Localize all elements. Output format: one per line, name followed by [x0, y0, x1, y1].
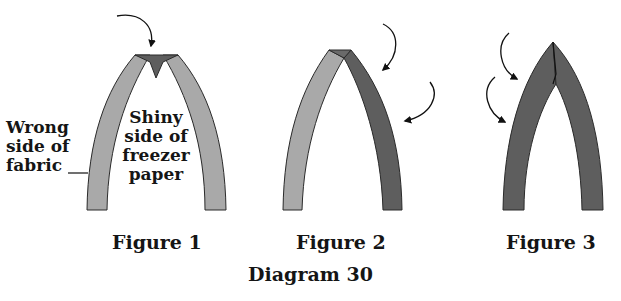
- label-line: side of: [6, 137, 86, 156]
- figure-3-arch: [487, 33, 603, 210]
- figure-2-arrow-2: [405, 82, 434, 121]
- label-line: paper: [116, 165, 196, 184]
- wrong-side-of-fabric-label: Wrong side of fabric: [6, 118, 86, 175]
- figure-1-fold-arrow: [117, 15, 152, 46]
- label-line: Wrong: [6, 118, 86, 137]
- figure-2-label: Figure 2: [296, 233, 386, 252]
- figure-1-label: Figure 1: [112, 233, 202, 252]
- figure-3-arrow-1: [501, 33, 517, 79]
- figure-2-arrow-1: [383, 24, 396, 70]
- shiny-side-of-freezer-paper-label: Shiny side of freezer paper: [116, 108, 196, 184]
- figure-3-label: Figure 3: [506, 233, 596, 252]
- label-line: fabric: [6, 156, 86, 175]
- label-line: freezer: [116, 146, 196, 165]
- diagram-canvas: [0, 0, 621, 301]
- diagram-title: Diagram 30: [0, 265, 621, 284]
- figure-3-left-leg: [503, 42, 556, 210]
- figure-3-right-leg: [553, 42, 603, 210]
- figure-2-left-leg: [283, 50, 344, 210]
- figure-2-right-leg: [344, 50, 402, 210]
- figure-3-arrow-2: [487, 77, 505, 122]
- figure-2-arch: [283, 24, 434, 210]
- label-line: Shiny: [116, 108, 196, 127]
- label-line: side of: [116, 127, 196, 146]
